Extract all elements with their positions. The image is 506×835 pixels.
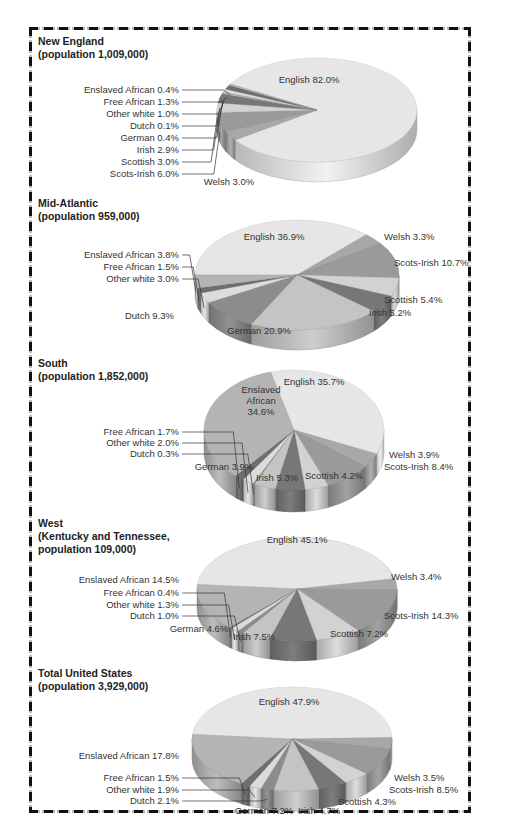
slice-label: Scots-Irish 8.5%: [389, 784, 459, 795]
section-new-england: New England (population 1,009,000) Engli…: [29, 35, 471, 195]
slice-label: German 0.4%: [120, 132, 179, 143]
slice-label: Irish 2.9%: [137, 144, 180, 155]
slice-label: Scots-Irish 10.7%: [394, 257, 469, 268]
pie-side-irish: [275, 489, 305, 512]
pie-slice-english: [192, 687, 392, 739]
slice-label: Free African 0.4%: [103, 587, 179, 598]
slice-label: Welsh 3.9%: [389, 449, 440, 460]
slice-label: Enslaved African 3.8%: [84, 249, 180, 260]
slice-label: Other white 3.0%: [106, 273, 179, 284]
slice-label: Welsh 3.3%: [384, 231, 435, 242]
slice-label: Irish 5.2%: [369, 307, 412, 318]
slice-label: Enslaved African 17.8%: [79, 750, 180, 761]
slice-label: Other white 1.3%: [106, 599, 179, 610]
slice-label: Free African 1.5%: [103, 772, 179, 783]
slice-label: Other white 1.9%: [106, 784, 179, 795]
slice-label: African: [246, 395, 276, 406]
section-mid-atlantic: Mid-Atlantic (population 959,000) Englis…: [29, 197, 471, 357]
slice-label: Scots-Irish 6.0%: [110, 168, 180, 179]
slice-label: Scottish 5.4%: [384, 294, 443, 305]
slice-label: Other white 1.0%: [106, 108, 179, 119]
dashed-border-top: [29, 27, 471, 30]
slice-label: Scots-Irish 14.3%: [384, 610, 459, 621]
chart-frame: New England (population 1,009,000) Engli…: [29, 27, 471, 813]
pie-chart-mid-atlantic: English 36.9%Welsh 3.3%Scots-Irish 10.7%…: [29, 197, 471, 357]
leader-line: [182, 255, 196, 292]
slice-label: Other white 2.0%: [106, 437, 179, 448]
pie-chart-west: English 45.1%Welsh 3.4%Scots-Irish 14.3%…: [29, 517, 471, 677]
slice-label: English 82.0%: [279, 74, 340, 85]
slice-label: German 20.9%: [227, 325, 291, 336]
section-total-united-states: Total United States (population 3,929,00…: [29, 667, 471, 817]
slice-label: German 7.2%: [235, 805, 294, 816]
slice-label: Dutch 9.3%: [125, 310, 175, 321]
slice-label: Scottish 4.3%: [338, 796, 397, 807]
section-west: West (Kentucky and Tennessee, population…: [29, 517, 471, 677]
slice-label: Enslaved: [241, 384, 280, 395]
slice-label: Welsh 3.0%: [204, 176, 255, 187]
slice-label: Free African 1.5%: [103, 261, 179, 272]
slice-label: Free African 1.3%: [103, 96, 179, 107]
slice-label: Scottish 3.0%: [121, 156, 180, 167]
slice-label: Irish 4.7%: [298, 805, 341, 816]
slice-label: English 45.1%: [267, 534, 328, 545]
slice-label: German 4.6%: [170, 623, 229, 634]
slice-label: Dutch 0.1%: [130, 120, 180, 131]
slice-label: Scottish 7.2%: [330, 628, 389, 639]
slice-label: Enslaved African 14.5%: [79, 574, 180, 585]
pie-side-scottish: [305, 486, 328, 512]
pie-side-irish: [269, 639, 316, 661]
slice-label: Dutch 0.3%: [130, 448, 180, 459]
pie-chart-new-england: English 82.0%Welsh 3.0%Scots-Irish 6.0%S…: [29, 35, 471, 195]
slice-label: English 47.9%: [259, 696, 320, 707]
slice-label: English 35.7%: [284, 376, 345, 387]
slice-label: Free African 1.7%: [103, 426, 179, 437]
slice-label: 34.6%: [248, 406, 275, 417]
leader-line: [182, 118, 217, 162]
pie-chart-south: English 35.7%Welsh 3.9%Scots-Irish 8.4%S…: [29, 357, 471, 517]
slice-label: Dutch 2.1%: [130, 795, 180, 806]
slice-label: Welsh 3.4%: [391, 571, 442, 582]
slice-label: Enslaved African 0.4%: [84, 84, 180, 95]
section-south: South (population 1,852,000) English 35.…: [29, 357, 471, 517]
pie-chart-total-united-states: English 47.9%Welsh 3.5%Scots-Irish 8.5%S…: [29, 667, 471, 817]
slice-label: Irish 5.3%: [256, 472, 299, 483]
slice-label: English 36.9%: [244, 231, 305, 242]
slice-label: Welsh 3.5%: [394, 772, 445, 783]
slice-label: Scottish 4.2%: [305, 470, 364, 481]
slice-label: Scots-Irish 8.4%: [384, 461, 454, 472]
slice-label: Dutch 1.0%: [130, 610, 180, 621]
